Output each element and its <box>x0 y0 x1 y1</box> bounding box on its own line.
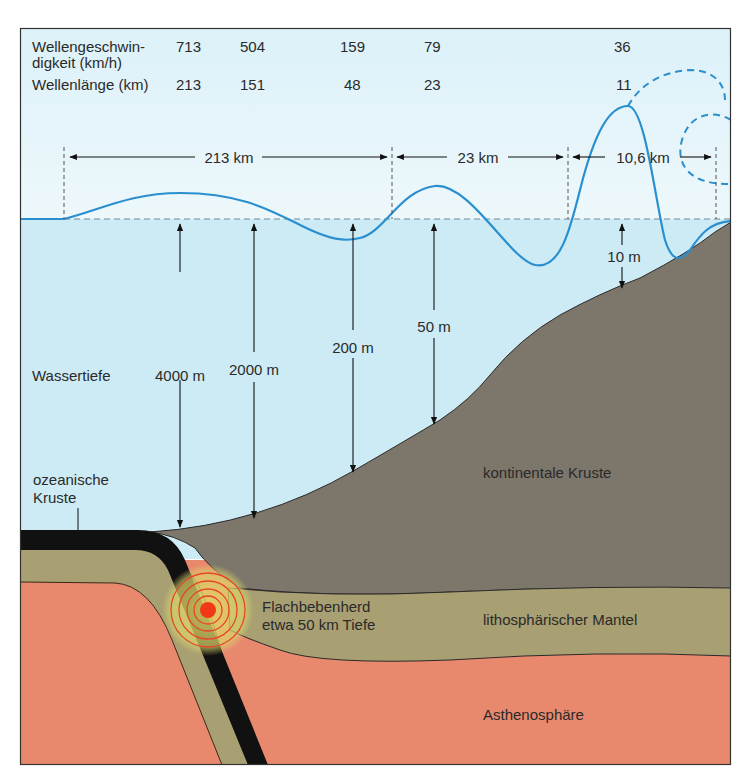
earthquake-focus <box>162 564 254 656</box>
continental-crust-label: kontinentale Kruste <box>483 464 611 481</box>
depth-2000-label: 2000 m <box>229 361 279 378</box>
span-213-label: 213 km <box>204 149 253 166</box>
speed-value: 159 <box>340 38 365 55</box>
speed-value: 36 <box>614 38 631 55</box>
length-value: 48 <box>344 76 361 93</box>
tsunami-diagram: 213 km 23 km 10,6 km 4000 m 2000 m 200 m… <box>0 0 749 781</box>
speed-row-label-1: Wellengeschwin- <box>32 38 145 55</box>
focus-label-1: Flachbebenherd <box>262 598 370 615</box>
span-106-label: 10,6 km <box>616 149 669 166</box>
speed-value: 713 <box>176 38 201 55</box>
water-depth-label: Wassertiefe <box>32 367 111 384</box>
sky-area <box>20 28 731 228</box>
oceanic-crust-label-2: Kruste <box>33 489 76 506</box>
depth-4000-label: 4000 m <box>155 367 205 384</box>
oceanic-crust-label-1: ozeanische <box>33 471 109 488</box>
length-value: 151 <box>240 76 265 93</box>
length-value: 23 <box>424 76 441 93</box>
lithospheric-mantle-label: lithosphärischer Mantel <box>483 611 637 628</box>
span-23-label: 23 km <box>458 149 499 166</box>
depth-10-label: 10 m <box>607 248 640 265</box>
length-value: 11 <box>616 76 632 93</box>
depth-50-label: 50 m <box>417 318 450 335</box>
focus-dot-icon <box>200 602 216 618</box>
speed-row-label-2: digkeit (km/h) <box>32 54 122 71</box>
length-row-label: Wellenlänge (km) <box>32 76 148 93</box>
focus-label-2: etwa 50 km Tiefe <box>262 616 375 633</box>
speed-value: 79 <box>424 38 441 55</box>
length-value: 213 <box>176 76 201 93</box>
depth-200-label: 200 m <box>332 339 374 356</box>
speed-value: 504 <box>240 38 265 55</box>
asthenosphere-label: Asthenosphäre <box>483 706 584 723</box>
